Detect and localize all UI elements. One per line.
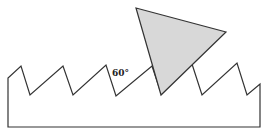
sawtooth-diagram: [0, 0, 267, 133]
triangle-tool: [136, 8, 226, 95]
angle-label: 60°: [112, 68, 129, 78]
sawtooth-profile: [8, 63, 260, 127]
